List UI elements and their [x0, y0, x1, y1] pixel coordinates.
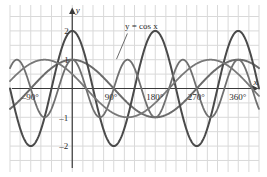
y-tick-label: 1 — [64, 55, 69, 65]
x-tick-label: 270° — [188, 92, 206, 102]
annotations-group: y = cos x — [117, 21, 159, 59]
x-tick-label: 90° — [105, 92, 118, 102]
series-annotation-label: y = cos x — [125, 21, 158, 31]
annotation-leader-line — [117, 33, 128, 59]
y-tick-label: –1 — [58, 113, 68, 123]
x-tick-label: 360° — [229, 92, 247, 102]
coordinate-plane: –90°90°180°270°360°21–1–2 y = cos x y x — [0, 0, 267, 177]
trig-graph-figure: –90°90°180°270°360°21–1–2 y = cos x y x — [0, 0, 267, 177]
x-tick-label: 180° — [146, 92, 164, 102]
x-axis-label: x — [253, 77, 258, 87]
y-axis-arrow — [69, 8, 75, 15]
y-tick-label: 2 — [64, 26, 69, 36]
x-tick-label: –90° — [21, 92, 40, 102]
y-tick-label: –2 — [58, 141, 68, 151]
y-axis-label: y — [75, 5, 80, 15]
